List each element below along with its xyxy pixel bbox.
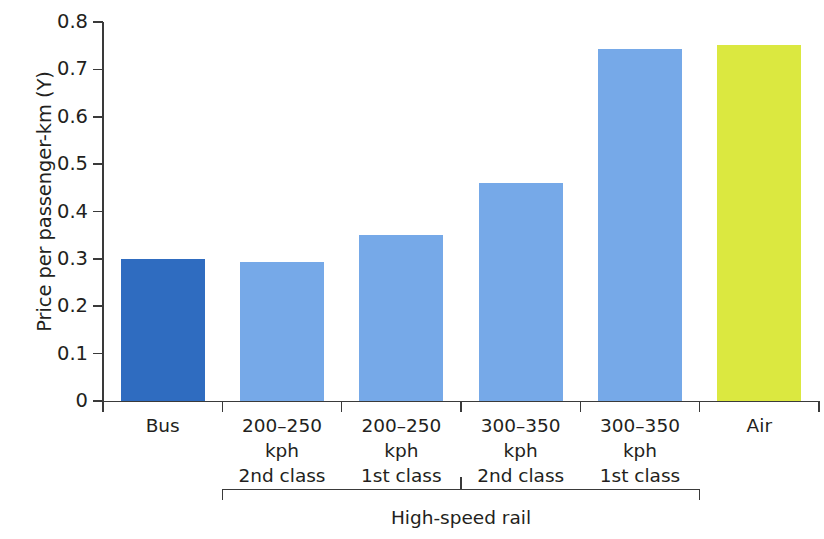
bar [598, 49, 682, 401]
x-axis-tick [460, 401, 462, 412]
x-axis-tick [818, 401, 820, 412]
y-axis-tick-label: 0 [0, 391, 88, 411]
group-bracket-line [222, 489, 699, 500]
y-axis-tick-label: 0.1 [0, 344, 88, 364]
x-axis-category-label: Air [700, 413, 819, 438]
bar [717, 45, 801, 401]
bar-chart: Price per passenger-km (Y) 00.10.20.30.4… [0, 0, 824, 539]
x-axis-category-label: 200–250 kph 1st class [342, 413, 461, 488]
x-axis-tick [580, 401, 582, 412]
y-axis-tick-label: 0.4 [0, 202, 88, 222]
x-axis-tick [699, 401, 701, 412]
y-axis-tick-label: 0.6 [0, 107, 88, 127]
bar [121, 259, 205, 401]
x-axis-tick [222, 401, 224, 412]
y-axis-tick-label: 0.5 [0, 154, 88, 174]
y-axis-tick-label: 0.2 [0, 296, 88, 316]
y-axis-tick-label: 0.8 [0, 12, 88, 32]
y-axis-tick-label: 0.7 [0, 59, 88, 79]
x-axis-category-label: 200–250 kph 2nd class [222, 413, 341, 488]
x-axis-tick [341, 401, 343, 412]
bar [240, 262, 324, 401]
plot-area [103, 22, 819, 401]
group-bracket-stem [460, 477, 462, 490]
x-axis-category-label: Bus [103, 413, 222, 438]
bar [479, 183, 563, 401]
bar [359, 235, 443, 401]
x-axis-tick [102, 401, 104, 412]
group-bracket-label: High-speed rail [261, 507, 661, 528]
x-axis-category-label: 300–350 kph 1st class [580, 413, 699, 488]
x-axis-category-label: 300–350 kph 2nd class [461, 413, 580, 488]
y-axis-tick-label: 0.3 [0, 249, 88, 269]
